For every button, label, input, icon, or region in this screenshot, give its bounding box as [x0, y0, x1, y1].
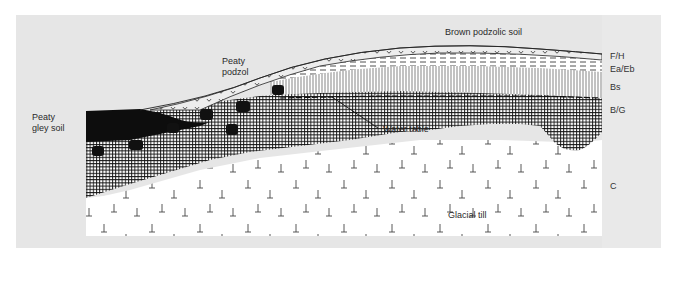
horizon-label-c: C: [610, 181, 617, 192]
horizon-label-bs: Bs: [610, 82, 621, 93]
label-brown-podzolic-soil: Brown podzolic soil: [445, 27, 522, 38]
horizon-label-b-g: B/G: [610, 105, 626, 116]
horizon-label-ea-eb: Ea/Eb: [610, 64, 635, 75]
label-peaty-podzol-line2: podzol: [222, 67, 249, 78]
label-peaty-podzol-line1: Peaty: [222, 56, 249, 67]
label-strip: [602, 15, 661, 248]
label-glacial-till: Glacial till: [448, 210, 487, 221]
label-peaty-podzol: Peaty podzol: [222, 56, 249, 78]
label-water-table: Water table: [383, 124, 429, 135]
horizon-label-f-h: F/H: [610, 51, 625, 62]
label-peaty-gley-soil: Peaty gley soil: [32, 112, 65, 134]
label-peaty-gley-soil-line2: gley soil: [32, 123, 65, 134]
label-peaty-gley-soil-line1: Peaty: [32, 112, 65, 123]
soil-catena-diagram: [0, 0, 687, 281]
